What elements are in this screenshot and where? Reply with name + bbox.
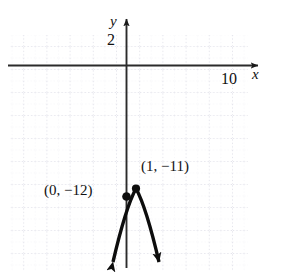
vertex-point-marker — [132, 184, 140, 192]
y-axis-label: y — [110, 14, 117, 29]
vertex-point-label: (1, −11) — [141, 159, 189, 174]
grid-lines — [10, 35, 248, 271]
y-axis-tick-label-2: 2 — [107, 32, 115, 48]
y-intercept-point-marker — [122, 192, 131, 201]
x-axis-tick-label-10: 10 — [221, 71, 237, 87]
graph-figure: y 2 10 x (1, −11) (0, −12) — [0, 0, 281, 276]
coordinate-plane — [0, 0, 281, 276]
x-axis-label: x — [252, 67, 259, 82]
y-intercept-point-label: (0, −12) — [44, 183, 92, 198]
